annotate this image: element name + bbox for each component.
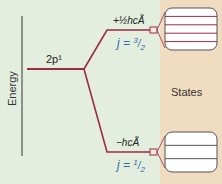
lower-states-box bbox=[165, 132, 217, 172]
2p-level-label: 2p¹ bbox=[46, 53, 62, 65]
lower-j-label: j = 1/2 bbox=[115, 158, 146, 174]
lower-node bbox=[150, 149, 157, 155]
lower-energy-label: −hcÃ bbox=[116, 136, 139, 148]
upper-states-box bbox=[165, 8, 217, 50]
energy-axis-label: Energy bbox=[6, 71, 18, 106]
upper-energy-label: +½hcÃ bbox=[113, 14, 145, 26]
states-label: States bbox=[171, 86, 203, 98]
upper-j-label: j = 3/2 bbox=[115, 36, 146, 52]
energy-level-diagram: Energy 2p¹ +½hcÃ j = 3/2 −hcÃ j = 1/2 St… bbox=[0, 0, 222, 184]
upper-node bbox=[150, 27, 157, 33]
